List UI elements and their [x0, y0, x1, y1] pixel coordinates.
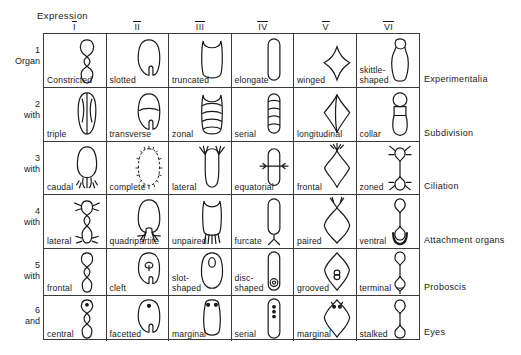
column-numeral-6: VI: [357, 21, 420, 33]
cell-r3c2: complete: [107, 142, 170, 195]
lateral-attachment-icon: [70, 196, 104, 247]
cell-r5c4: disc- shaped: [232, 249, 295, 296]
cell-label-r5c2: cleft: [110, 284, 127, 294]
cell-label-r4c2: quadripartite: [110, 237, 156, 247]
column-numeral-2: II: [106, 21, 169, 33]
column-numeral-2-text: II: [133, 21, 141, 33]
row-left-label-3-num: 3: [0, 153, 40, 164]
cell-r6c5: marginal: [294, 296, 357, 341]
cell-label-r6c4: serial: [235, 330, 256, 340]
cell-r1c4: elongate: [232, 34, 295, 88]
cell-r1c1: Constricted: [44, 34, 107, 88]
cell-label-r4c4: furcate: [235, 237, 262, 247]
cell-label-r6c6: stalked: [360, 330, 388, 340]
row-left-label-4-word: with: [0, 217, 40, 228]
cell-r5c1: frontal: [44, 249, 107, 296]
cell-label-r4c6: ventral: [360, 237, 387, 247]
row-right-label-proboscis: Proboscis: [424, 282, 466, 292]
stalked-eyes-icon: [383, 297, 417, 340]
cell-label-r3c4: equatorial: [235, 183, 274, 193]
cell-r2c1: triple: [44, 88, 107, 142]
row-right-labels: Experimentalia Subdivision Ciliation Att…: [424, 33, 521, 340]
column-numeral-1-text: I: [72, 21, 77, 33]
row-right-label-subdivision: Subdivision: [424, 128, 473, 138]
cell-label-r3c6: zoned: [360, 183, 384, 193]
cell-label-r4c1: lateral: [47, 237, 71, 247]
cell-r6c1: central: [44, 296, 107, 341]
cell-label-r3c3: lateral: [172, 183, 196, 193]
column-numeral-3: III: [169, 21, 232, 33]
cell-r2c5: longitudinal: [294, 88, 357, 142]
column-numeral-3-text: III: [195, 21, 205, 33]
expression-title: Expression: [37, 10, 88, 21]
classification-grid: Constricted slotted truncated: [43, 33, 420, 340]
column-numeral-4: IV: [231, 21, 294, 33]
column-numeral-5-text: V: [322, 21, 330, 33]
triple-subdivision-icon: [70, 89, 104, 140]
cell-label-r4c5: paired: [297, 237, 322, 247]
cell-label-r3c5: frontal: [297, 183, 322, 193]
cell-label-r4c3: unpaired: [172, 237, 207, 247]
cell-label-r5c5: grooved: [297, 284, 329, 294]
cell-r3c4: equatorial: [232, 142, 295, 195]
serial-eyes-icon: [257, 297, 291, 340]
column-numeral-4-text: IV: [257, 21, 268, 33]
row-left-label-2-num: 2: [0, 99, 40, 110]
cell-label-r1c3: truncated: [172, 76, 209, 86]
cell-r5c3: slot-shaped: [169, 249, 232, 296]
row-left-label-3-word: with: [0, 164, 40, 175]
row-left-label-5: 5 with: [0, 260, 40, 282]
cell-label-r1c1: Constricted: [47, 76, 92, 86]
cell-label-r2c1: triple: [47, 130, 67, 140]
row-left-label-4-num: 4: [0, 206, 40, 217]
row-left-label-5-num: 5: [0, 260, 40, 271]
cell-r1c6: skittle- shaped: [357, 34, 420, 88]
cell-r6c3: marginal: [169, 296, 232, 341]
cell-r4c2: quadripartite: [107, 195, 170, 249]
frontal-proboscis-icon: [70, 250, 104, 294]
cell-r3c3: lateral: [169, 142, 232, 195]
paired-attachment-icon: [320, 196, 354, 247]
caudal-ciliation-icon: [70, 143, 104, 193]
cell-label-r2c5: longitudinal: [297, 130, 342, 140]
cell-r4c5: paired: [294, 195, 357, 249]
cell-r2c3: zonal: [169, 88, 232, 142]
cell-r5c2: cleft: [107, 249, 170, 296]
cell-r6c4: serial: [232, 296, 295, 341]
cell-r1c3: truncated: [169, 34, 232, 88]
row-left-label-5-word: with: [0, 271, 40, 282]
collar-subdivision-icon: [383, 89, 417, 140]
cell-label-r1c6: skittle- shaped: [360, 66, 389, 85]
column-numeral-1: I: [43, 21, 106, 33]
cell-r2c6: collar: [357, 88, 420, 142]
row-left-label-1-word: Organ: [0, 56, 40, 67]
serial-subdivision-icon: [257, 89, 291, 140]
cell-label-r2c3: zonal: [172, 130, 193, 140]
cell-label-r1c2: slotted: [110, 76, 136, 86]
cell-label-r6c1: central: [47, 330, 74, 340]
row-left-label-6: 6 and: [0, 305, 40, 327]
row-left-label-1-num: 1: [0, 45, 40, 56]
cell-label-r6c5: marginal: [297, 330, 331, 340]
cell-label-r5c1: frontal: [47, 284, 72, 294]
slotted-organ-icon: [132, 35, 166, 86]
furcate-attachment-icon: [257, 196, 291, 247]
cell-r3c5: frontal: [294, 142, 357, 195]
cell-r1c2: slotted: [107, 34, 170, 88]
cell-r5c6: terminal: [357, 249, 420, 296]
central-eyes-icon: [70, 297, 104, 340]
row-left-label-6-word: and: [0, 316, 40, 327]
morphology-classification-figure: Expression I II III IV V VI 1 Organ 2 wi…: [0, 0, 521, 355]
row-left-label-2-word: with: [0, 110, 40, 121]
cell-r6c2: facetted: [107, 296, 170, 341]
cell-r2c4: serial: [232, 88, 295, 142]
row-left-label-3: 3 with: [0, 153, 40, 175]
row-left-label-2: 2 with: [0, 99, 40, 121]
cell-r3c1: caudal: [44, 142, 107, 195]
cell-label-r6c2: facetted: [110, 330, 142, 340]
cell-r4c1: lateral: [44, 195, 107, 249]
cell-r2c2: transverse: [107, 88, 170, 142]
row-left-label-6-num: 6: [0, 305, 40, 316]
cell-r6c6: stalked: [357, 296, 420, 341]
row-right-label-eyes: Eyes: [424, 327, 445, 337]
